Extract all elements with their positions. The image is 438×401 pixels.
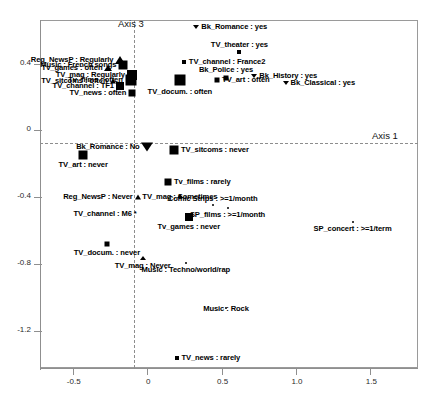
x-tick: 1.0 bbox=[296, 368, 297, 375]
data-point-marker bbox=[135, 195, 141, 200]
x-tick: 0 bbox=[147, 368, 148, 375]
y-tick: -0.4 bbox=[34, 197, 42, 198]
x-tick: 1.5 bbox=[370, 368, 371, 375]
x-tick-label: 0.5 bbox=[217, 377, 228, 386]
data-point-label: TV_docum. : never bbox=[74, 249, 140, 257]
data-point-marker bbox=[212, 204, 214, 206]
x-axis-title: Axis 1 bbox=[372, 130, 398, 141]
data-point-marker bbox=[251, 74, 257, 78]
data-point-label: TV_art : never bbox=[59, 161, 108, 169]
data-point-marker bbox=[129, 89, 136, 96]
data-point-label: TV_theater : yes bbox=[211, 41, 268, 49]
data-point-label: Comic Strips : >=1/month bbox=[168, 195, 258, 203]
data-point-label: SP_films : >=1/month bbox=[190, 211, 265, 219]
data-point-label: TV_docum. : often bbox=[148, 88, 213, 96]
x-tick-label: 1.5 bbox=[366, 377, 377, 386]
data-point-marker bbox=[193, 25, 199, 29]
data-point-label: TV_news : often bbox=[70, 89, 127, 97]
y-tick: -0.8 bbox=[34, 264, 42, 265]
x-tick-label: 1.0 bbox=[291, 377, 302, 386]
x-tick-label: 0 bbox=[146, 377, 150, 386]
data-point-label: Reg_NewsP : Never bbox=[63, 193, 133, 201]
data-point-label: Music : Techno/world/rap bbox=[142, 266, 231, 274]
data-point-marker bbox=[283, 81, 289, 85]
data-point-marker bbox=[119, 61, 128, 70]
y-tick-label: -0.4 bbox=[17, 191, 31, 200]
data-point-marker bbox=[224, 75, 229, 80]
correspondence-analysis-scatter-plot: 0.40-0.4-0.8-1.2 -0.500.51.01.5 Axis 3 A… bbox=[0, 0, 438, 401]
data-point-marker bbox=[174, 75, 185, 86]
y-tick: -1.2 bbox=[34, 331, 42, 332]
y-tick-label: 0 bbox=[27, 124, 31, 133]
x-axis-line bbox=[40, 368, 418, 369]
data-point-label: Bk_Romance : yes bbox=[201, 23, 267, 31]
x-tick: 0.5 bbox=[222, 368, 223, 375]
data-point-marker bbox=[104, 242, 109, 247]
data-point-marker bbox=[227, 207, 229, 209]
data-point-label: TV_sitcoms : never bbox=[181, 146, 249, 154]
y-axis-line bbox=[40, 20, 41, 370]
x-tick: -0.5 bbox=[73, 368, 74, 375]
data-point-marker bbox=[175, 356, 179, 360]
data-point-marker bbox=[79, 150, 88, 159]
data-point-marker bbox=[125, 75, 136, 86]
y-tick-label: -0.8 bbox=[17, 258, 31, 267]
data-point-label: Bk_Classical : yes bbox=[291, 79, 355, 87]
data-point-marker bbox=[140, 256, 146, 260]
data-point-marker bbox=[164, 179, 171, 186]
y-tick-label: 0.4 bbox=[20, 58, 31, 67]
data-point-marker bbox=[182, 60, 186, 64]
y-tick-label: -1.2 bbox=[17, 325, 31, 334]
data-point-marker bbox=[352, 221, 354, 223]
data-point-label: Bk_Police : yes bbox=[199, 66, 253, 74]
data-point-label: Tv_games : never bbox=[158, 223, 221, 231]
y-axis-title: Axis 3 bbox=[118, 18, 144, 29]
data-point-label: Tv_films : rarely bbox=[174, 178, 231, 186]
data-point-label: SP_concert : >=1/term bbox=[313, 225, 391, 233]
data-point-marker bbox=[185, 213, 193, 221]
data-point-marker bbox=[141, 143, 153, 152]
data-point-marker bbox=[185, 262, 187, 264]
y-tick: 0 bbox=[34, 130, 42, 131]
data-point-label: TV_channel : M6 * bbox=[73, 210, 136, 218]
x-tick-label: -0.5 bbox=[67, 377, 81, 386]
data-point-marker bbox=[169, 145, 178, 154]
data-point-label: Music : Rock bbox=[203, 305, 249, 313]
data-point-marker bbox=[215, 78, 220, 83]
data-point-marker bbox=[237, 50, 241, 54]
data-point-label: TV_news : rarely bbox=[181, 354, 240, 362]
